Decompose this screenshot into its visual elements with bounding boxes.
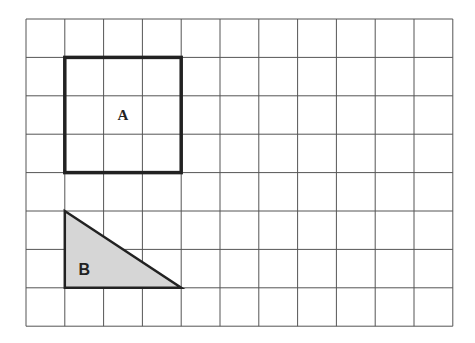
label-a: A xyxy=(118,107,129,123)
grid-diagram: A B xyxy=(0,0,475,343)
label-b: B xyxy=(78,261,90,278)
